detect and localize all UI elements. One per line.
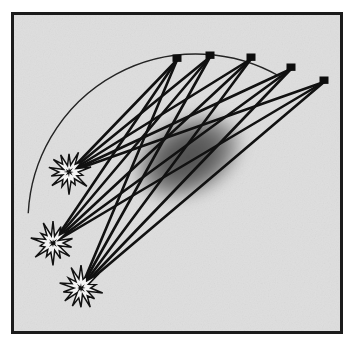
source-2-core-icon <box>49 239 58 247</box>
receiver-5-marker <box>320 77 329 84</box>
receiver-5 <box>320 77 329 84</box>
receiver-4 <box>287 64 296 71</box>
figure-root <box>0 0 353 347</box>
receiver-3-marker <box>247 54 256 61</box>
receiver-1-marker <box>173 55 182 62</box>
receiver-4-marker <box>287 64 296 71</box>
receiver-3 <box>247 54 256 61</box>
receiver-1 <box>173 55 182 62</box>
tomography-diagram <box>0 0 353 347</box>
receiver-2 <box>206 52 215 59</box>
receiver-2-marker <box>206 52 215 59</box>
